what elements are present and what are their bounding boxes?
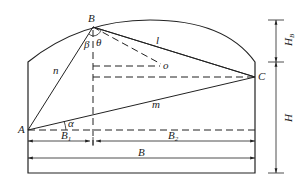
label-dim-H: H [282, 113, 294, 123]
label-point-o: o [163, 59, 169, 71]
label-segment-m: m [152, 98, 160, 110]
label-dim-B2: B2 [168, 129, 179, 143]
label-angle-alpha: α [68, 117, 74, 129]
B-to-C-dashed [93, 27, 255, 77]
label-point-A: A [17, 123, 25, 135]
label-angle-theta: θ [96, 36, 102, 48]
B-to-o-dashed [93, 27, 161, 64]
segment-m [28, 77, 255, 130]
dashed-helpers [28, 27, 255, 145]
label-dim-B: B [138, 146, 145, 158]
diagram-canvas: B C A o n l m α β θ B1 B2 B HB H [0, 0, 303, 188]
label-dim-HB: HB [282, 33, 296, 47]
label-segment-l: l [156, 34, 159, 46]
label-dim-B1: B1 [61, 129, 71, 143]
label-point-B: B [88, 12, 95, 24]
label-segment-n: n [53, 64, 59, 76]
label-point-C: C [258, 70, 266, 82]
label-angle-beta: β [83, 38, 90, 50]
